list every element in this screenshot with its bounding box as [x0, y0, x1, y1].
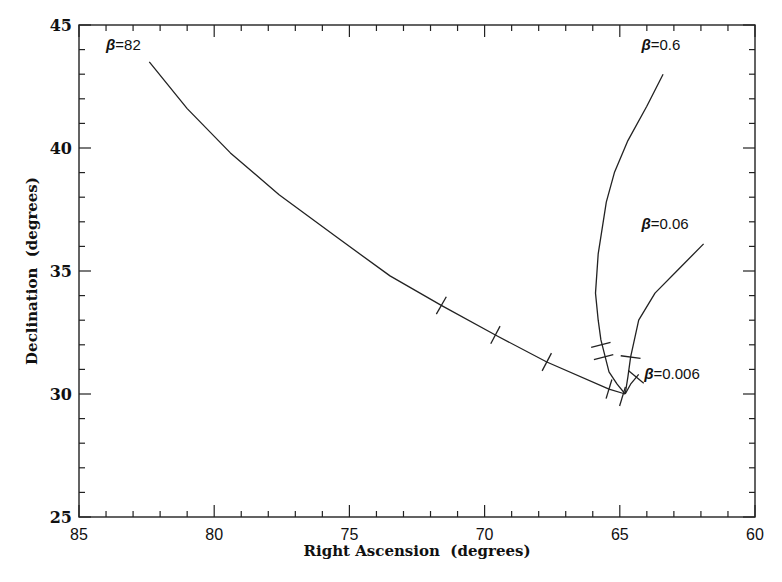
curve-labels: β=82β=0.6β=0.06β=0.006	[105, 36, 700, 383]
x-tick-label: 80	[205, 526, 223, 543]
curve-marker	[591, 342, 610, 347]
y-tick-label: 35	[50, 262, 72, 281]
y-tick-label: 45	[50, 16, 72, 35]
x-tick-label: 60	[746, 526, 764, 543]
curves	[149, 62, 703, 406]
curve-marker	[436, 297, 446, 314]
curve-marker	[491, 326, 500, 344]
y-tick-label: 40	[50, 139, 72, 158]
curve-marker	[542, 353, 551, 371]
curve-label-beta-0-006: β=0.006	[643, 365, 700, 382]
curve-label-beta-0-6: β=0.6	[640, 36, 680, 53]
x-axis-title: Right Ascension (degrees)	[303, 542, 530, 560]
y-tick-label: 30	[50, 385, 72, 404]
trajectory-chart: 8580757065602530354045 β=82β=0.6β=0.06β=…	[0, 0, 782, 582]
curve-label-beta-0-06: β=0.06	[640, 215, 688, 232]
plot-frame	[79, 25, 755, 517]
x-tick-label: 85	[70, 526, 88, 543]
curve-marker	[628, 370, 643, 383]
x-tick-label: 65	[611, 526, 629, 543]
y-axis-title: Declination (degrees)	[23, 177, 41, 365]
curve-beta-82	[149, 62, 625, 394]
axes: 8580757065602530354045	[50, 16, 764, 543]
curve-label-beta-82: β=82	[105, 36, 141, 53]
y-tick-label: 25	[50, 508, 72, 527]
curve-beta-0-6	[596, 74, 664, 394]
x-tick-label: 75	[341, 526, 359, 543]
curve-marker	[594, 355, 613, 360]
x-tick-label: 70	[476, 526, 494, 543]
